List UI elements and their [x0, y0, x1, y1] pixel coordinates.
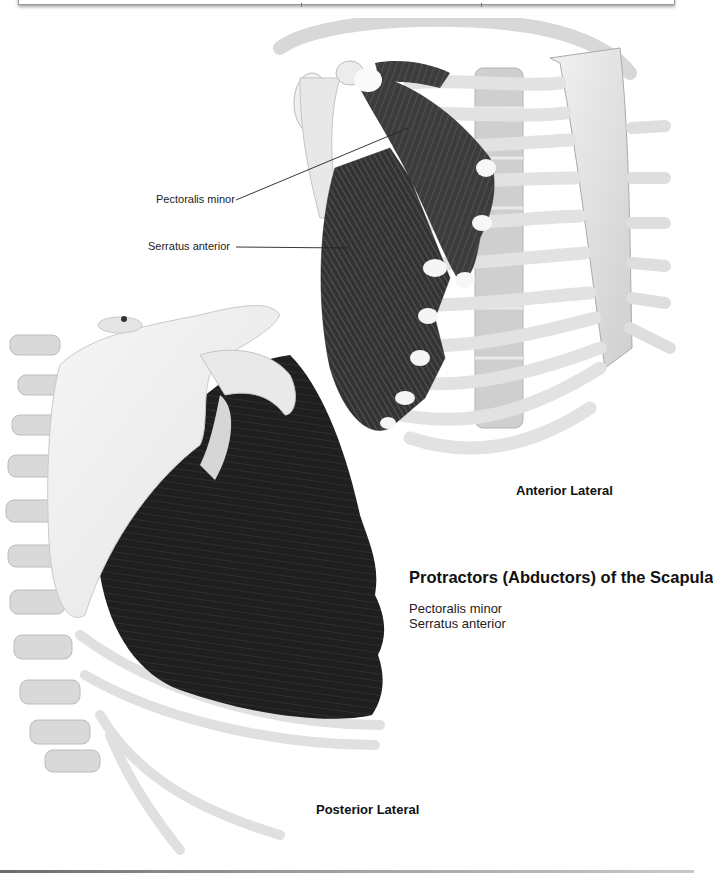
muscle-list: Pectoralis minor Serratus anterior	[409, 601, 506, 631]
frame-tick	[481, 3, 482, 7]
top-frame	[18, 0, 675, 5]
posterior-lateral-illustration	[0, 295, 400, 860]
caption-anterior-lateral: Anterior Lateral	[516, 483, 613, 498]
page-title: Protractors (Abductors) of the Scapula	[409, 568, 713, 587]
label-pectoralis-minor: Pectoralis minor	[156, 193, 235, 205]
caption-posterior-lateral: Posterior Lateral	[316, 802, 419, 817]
frame-tick	[301, 3, 302, 7]
muscle-list-item: Serratus anterior	[409, 616, 506, 631]
ribcage-posterior-image	[0, 295, 400, 860]
label-serratus-anterior: Serratus anterior	[148, 240, 230, 252]
muscle-list-item: Pectoralis minor	[409, 601, 506, 616]
